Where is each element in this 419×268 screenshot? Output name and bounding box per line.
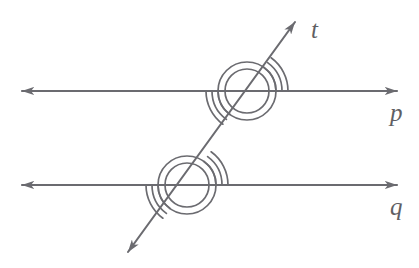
figure-canvas: t p q bbox=[0, 0, 419, 268]
angle-arc-upper-right-3 bbox=[271, 58, 288, 91]
angle-arc-lower-left-3 bbox=[146, 185, 163, 218]
label-line-p: p bbox=[388, 99, 403, 126]
label-line-q: q bbox=[390, 193, 403, 220]
angle-arc-upper-left-3 bbox=[206, 91, 223, 124]
angle-arc-lower-right-3 bbox=[211, 152, 228, 185]
transversal-t-group bbox=[128, 22, 295, 252]
transversal-t bbox=[128, 22, 295, 252]
geometry-figure: t p q bbox=[0, 0, 419, 268]
label-transversal-t: t bbox=[311, 16, 319, 43]
